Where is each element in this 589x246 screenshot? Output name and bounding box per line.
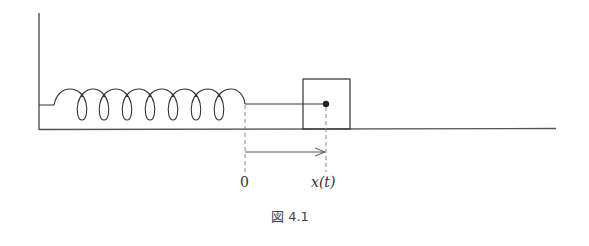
floor xyxy=(39,129,556,130)
spring xyxy=(39,89,326,120)
origin-label: 0 xyxy=(240,174,249,190)
center-dot xyxy=(323,101,329,107)
position-label: x(t) xyxy=(311,174,335,190)
figure-caption: 図 4.1 xyxy=(271,206,309,225)
displacement-arrow xyxy=(245,148,325,156)
